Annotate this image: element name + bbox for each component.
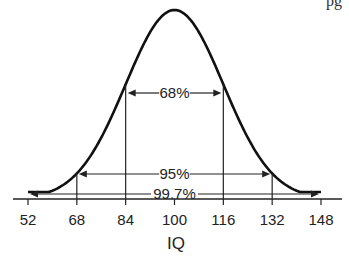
corner-text-fragment: pg	[326, 0, 342, 10]
arrowhead-right-icon	[213, 90, 221, 97]
x-axis-ticks: 526884100116132148	[20, 199, 334, 228]
interval-label: 95%	[159, 165, 189, 182]
tick-label: 84	[117, 211, 134, 228]
interval-label: 99.7%	[153, 185, 196, 202]
tick-label: 132	[260, 211, 285, 228]
tick-label: 116	[211, 211, 235, 228]
iq-normal-distribution-chart: pg 526884100116132148 68%95%99.7% IQ	[0, 0, 349, 267]
interval-label: 68%	[159, 84, 189, 101]
x-axis-label: IQ	[167, 234, 185, 253]
tick-label: 52	[20, 211, 37, 228]
tick-label: 100	[162, 211, 187, 228]
arrowhead-left-icon	[128, 90, 136, 97]
interval-95pct: 95%	[79, 165, 270, 182]
tick-label: 68	[68, 211, 85, 228]
svg-text:pg: pg	[326, 0, 342, 10]
tick-label: 148	[308, 211, 333, 228]
interval-arrows: 68%95%99.7%	[30, 84, 319, 202]
interval-68pct: 68%	[128, 84, 222, 101]
